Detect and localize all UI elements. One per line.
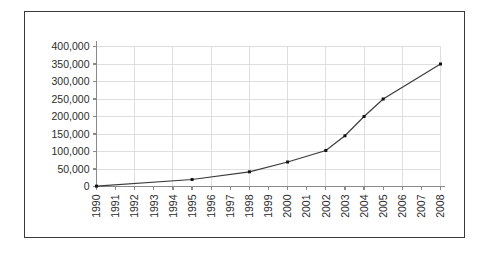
y-tick-label: 150,000 [52, 128, 90, 140]
x-tick-label: 2006 [396, 194, 408, 218]
chart-axes [93, 41, 445, 187]
x-tick-label: 1991 [109, 194, 121, 218]
y-tick-label: 400,000 [52, 40, 90, 52]
data-point-marker [324, 149, 327, 152]
chart-figure: 050,000100,000150,000200,000250,000300,0… [0, 0, 492, 257]
data-series-line [97, 64, 441, 186]
y-tick-label: 50,000 [57, 163, 89, 175]
y-axis-tick-labels: 050,000100,000150,000200,000250,000300,0… [52, 40, 90, 192]
x-tick-label: 1993 [148, 194, 160, 218]
y-tick-label: 350,000 [52, 58, 90, 70]
x-tick-label: 2003 [339, 194, 351, 218]
data-point-marker [439, 63, 442, 66]
x-tick-label: 2002 [320, 194, 332, 218]
y-tick-label: 200,000 [52, 110, 90, 122]
line-chart: 050,000100,000150,000200,000250,000300,0… [0, 0, 492, 257]
y-tick-label: 300,000 [52, 75, 90, 87]
x-tick-label: 1994 [167, 194, 179, 218]
data-point-marker [95, 185, 98, 188]
data-point-marker [248, 170, 251, 173]
x-axis-tick-labels: 1990199119921993199419951996199719981999… [90, 194, 446, 218]
data-point-marker [343, 134, 346, 137]
horizontal-gridlines [97, 47, 441, 170]
y-tick-label: 100,000 [52, 145, 90, 157]
x-tick-label: 2005 [377, 194, 389, 218]
x-tick-label: 2007 [415, 194, 427, 218]
x-tick-label: 2001 [300, 194, 312, 218]
x-tick-label: 1999 [262, 194, 274, 218]
x-tick-label: 1990 [90, 194, 102, 218]
y-tick-label: 250,000 [52, 93, 90, 105]
data-point-marker [382, 98, 385, 101]
data-point-marker [286, 161, 289, 164]
y-tick-label: 0 [84, 180, 90, 192]
x-tick-label: 1998 [243, 194, 255, 218]
x-tick-label: 1992 [128, 194, 140, 218]
data-point-marker [363, 115, 366, 118]
x-tick-label: 1996 [205, 194, 217, 218]
x-tick-label: 2004 [358, 194, 370, 218]
x-tick-label: 1995 [186, 194, 198, 218]
x-tick-label: 2008 [434, 194, 446, 218]
x-tick-label: 2000 [281, 194, 293, 218]
x-tick-label: 1997 [224, 194, 236, 218]
data-point-marker [191, 178, 194, 181]
